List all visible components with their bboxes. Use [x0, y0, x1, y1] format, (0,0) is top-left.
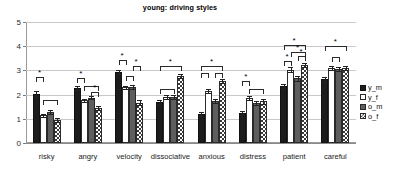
legend-item-o_m[interactable]: o_m — [360, 102, 400, 112]
bracket-tick-left — [332, 57, 333, 62]
bracket-tick-left — [126, 76, 127, 81]
bar-anxious-o_f[interactable] — [219, 81, 226, 143]
error-cap-dissociative-o_f-lower — [178, 78, 183, 79]
error-cap-angry-o_f-lower — [96, 110, 101, 111]
bracket-tick-right — [222, 73, 223, 78]
bar-risky-o_m[interactable] — [47, 112, 54, 143]
bar-angry-y_f[interactable] — [81, 100, 88, 143]
bar-anxious-o_m[interactable] — [212, 101, 219, 143]
bar-angry-o_f[interactable] — [95, 108, 102, 143]
bar-patient-o_f[interactable] — [301, 65, 308, 143]
bar-distress-o_m[interactable] — [253, 103, 260, 143]
error-cap-patient-o_m-upper — [295, 76, 300, 77]
bar-careful-y_f[interactable] — [328, 68, 335, 143]
bar-angry-o_m[interactable] — [88, 98, 95, 143]
error-cap-angry-y_m-lower — [75, 90, 80, 91]
bracket-tick-right — [57, 100, 58, 105]
bracket-tick-right — [263, 89, 264, 94]
y-tick-label-3: 3 — [0, 66, 21, 75]
y-tick-mark-0 — [23, 143, 26, 144]
bar-risky-y_f[interactable] — [40, 115, 47, 143]
legend-swatch-o_f — [360, 113, 366, 119]
bar-distress-y_m[interactable] — [239, 113, 246, 143]
y-tick-label-2: 2 — [0, 90, 21, 99]
error-cap-velocity-o_m-lower — [130, 89, 135, 90]
bracket-tick-left — [284, 61, 285, 66]
bar-dissociative-y_m[interactable] — [156, 102, 163, 143]
error-cap-distress-y_f-lower — [247, 100, 252, 101]
error-cap-risky-o_f-upper — [55, 118, 60, 119]
error-cap-velocity-y_f-upper — [123, 86, 128, 87]
error-cap-anxious-y_f-upper — [206, 89, 211, 90]
error-cap-distress-y_m-lower — [240, 114, 245, 115]
chart-legend: y_my_fo_mo_f — [360, 83, 400, 121]
error-cap-anxious-o_m-lower — [213, 103, 218, 104]
error-cap-angry-o_m-lower — [89, 99, 94, 100]
error-cap-risky-y_m-upper — [34, 91, 39, 92]
bracket-horizontal — [133, 66, 140, 67]
bar-dissociative-o_m[interactable] — [170, 97, 177, 143]
error-cap-anxious-y_f-lower — [206, 93, 211, 94]
y-tick-label-4: 4 — [0, 42, 21, 51]
error-cap-anxious-y_m-lower — [199, 116, 204, 117]
bar-anxious-y_f[interactable] — [205, 91, 212, 143]
bar-careful-o_m[interactable] — [335, 69, 342, 143]
bracket-horizontal — [160, 89, 174, 90]
legend-item-y_m[interactable]: y_m — [360, 83, 400, 93]
x-tick-label-dissociative: dissociative — [151, 152, 190, 161]
bar-careful-y_m[interactable] — [321, 79, 328, 143]
bracket-tick-right — [43, 77, 44, 82]
bracket-tick-right — [98, 92, 99, 97]
bracket-tick-left — [298, 56, 299, 61]
bar-group-anxious — [191, 22, 232, 143]
legend-swatch-y_f — [360, 94, 366, 100]
bracket-tick-right — [140, 66, 141, 71]
bar-patient-y_m[interactable] — [280, 86, 287, 143]
bar-velocity-o_m[interactable] — [129, 87, 136, 143]
bar-velocity-o_f[interactable] — [136, 103, 143, 143]
bar-distress-o_f[interactable] — [260, 101, 267, 143]
y-tick-label-1: 1 — [0, 114, 21, 123]
bracket-tick-right — [84, 78, 85, 83]
bracket-tick-right — [222, 66, 223, 71]
bracket-tick-left — [77, 78, 78, 83]
significance-star: * — [334, 39, 337, 45]
bar-velocity-y_f[interactable] — [122, 87, 129, 143]
error-cap-anxious-o_f-lower — [220, 83, 225, 84]
bracket-tick-right — [249, 81, 250, 86]
bracket-tick-left — [284, 45, 285, 50]
bracket-tick-right — [291, 61, 292, 66]
error-cap-dissociative-o_f-upper — [178, 74, 183, 75]
bracket-horizontal — [215, 73, 222, 74]
bracket-tick-left — [201, 73, 202, 78]
error-cap-careful-y_m-upper — [322, 77, 327, 78]
bar-distress-y_f[interactable] — [246, 98, 253, 143]
chart-title: young: driving styles — [0, 3, 360, 12]
legend-item-y_f[interactable]: y_f — [360, 93, 400, 103]
bar-angry-y_m[interactable] — [74, 88, 81, 143]
bar-velocity-y_m[interactable] — [115, 72, 122, 143]
bracket-tick-left — [201, 66, 202, 71]
bar-patient-y_f[interactable] — [287, 70, 294, 143]
significance-star: * — [79, 71, 82, 77]
error-cap-careful-y_f-upper — [329, 66, 334, 67]
bar-risky-y_m[interactable] — [33, 94, 40, 143]
bracket-tick-left — [43, 100, 44, 105]
bar-dissociative-y_f[interactable] — [163, 97, 170, 143]
bar-patient-o_m[interactable] — [294, 78, 301, 143]
bracket-horizontal — [43, 100, 57, 101]
significance-star: * — [38, 70, 41, 76]
error-cap-risky-y_f-lower — [41, 117, 46, 118]
x-tick-label-risky: risky — [39, 152, 55, 161]
bar-anxious-y_m[interactable] — [198, 114, 205, 143]
error-cap-careful-y_m-lower — [322, 82, 327, 83]
bar-risky-o_f[interactable] — [54, 120, 61, 143]
significance-star: * — [93, 85, 96, 91]
bracket-tick-right — [98, 86, 99, 91]
legend-item-o_f[interactable]: o_f — [360, 112, 400, 122]
bar-careful-o_f[interactable] — [342, 68, 349, 143]
error-cap-risky-y_f-upper — [41, 114, 46, 115]
x-tick-label-distress: distress — [240, 152, 266, 161]
bracket-horizontal — [249, 89, 263, 90]
bar-dissociative-o_f[interactable] — [177, 76, 184, 143]
